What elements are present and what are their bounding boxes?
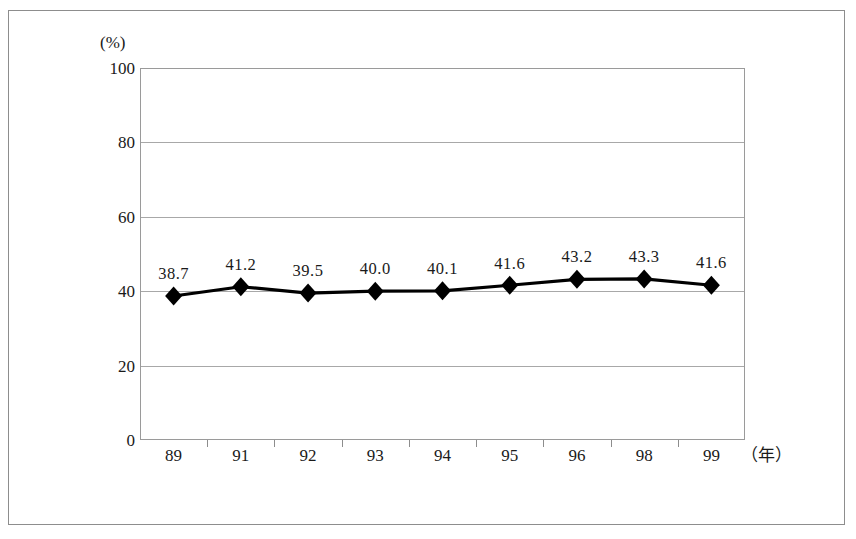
x-tick-mark-6 <box>543 440 544 447</box>
line-chart: (%) 100 80 60 40 20 0 89 91 92 93 94 95 … <box>0 0 856 539</box>
y-tick-label-40: 40 <box>95 283 135 300</box>
point-label-2: 39.5 <box>276 263 340 280</box>
x-axis-unit-label: （年） <box>741 446 792 466</box>
x-tick-label-99: 99 <box>681 446 741 466</box>
y-tick-label-100: 100 <box>95 60 135 77</box>
figure-container: (%) 100 80 60 40 20 0 89 91 92 93 94 95 … <box>0 0 856 539</box>
x-tick-label-95: 95 <box>480 446 540 466</box>
x-tick-mark-4 <box>409 440 410 447</box>
x-tick-mark-7 <box>611 440 612 447</box>
point-label-4: 40.1 <box>411 261 475 278</box>
x-tick-label-94: 94 <box>413 446 473 466</box>
x-tick-mark-8 <box>678 440 679 447</box>
y-axis-unit-label: (%) <box>100 34 125 51</box>
y-tick-label-60: 60 <box>95 209 135 226</box>
x-tick-label-91: 91 <box>211 446 271 466</box>
x-tick-label-96: 96 <box>547 446 607 466</box>
point-label-7: 43.3 <box>612 249 676 266</box>
x-tick-mark-1 <box>207 440 208 447</box>
point-label-3: 40.0 <box>343 261 407 278</box>
x-tick-label-92: 92 <box>278 446 338 466</box>
y-tick-label-20: 20 <box>95 358 135 375</box>
point-label-8: 41.6 <box>679 255 743 272</box>
x-tick-mark-5 <box>476 440 477 447</box>
x-tick-label-89: 89 <box>144 446 204 466</box>
point-label-1: 41.2 <box>209 257 273 274</box>
y-tick-label-80: 80 <box>95 134 135 151</box>
x-tick-label-93: 93 <box>345 446 405 466</box>
point-label-6: 43.2 <box>545 249 609 266</box>
x-tick-label-98: 98 <box>614 446 674 466</box>
point-label-0: 38.7 <box>142 266 206 283</box>
y-tick-label-0: 0 <box>95 432 135 449</box>
x-tick-mark-2 <box>274 440 275 447</box>
point-label-5: 41.6 <box>478 256 542 273</box>
x-tick-mark-3 <box>342 440 343 447</box>
